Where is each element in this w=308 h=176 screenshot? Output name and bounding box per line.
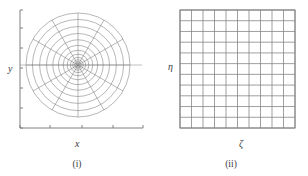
eta-axis-label: η (168, 62, 173, 72)
panel-physical-space: y x (i) (0, 0, 154, 176)
x-axis-label: x (75, 139, 79, 149)
grid-lines-group (180, 10, 295, 128)
zeta-axis-label: ζ (239, 139, 243, 149)
y-axis-label: y (8, 64, 12, 74)
polar-mesh-plot (0, 0, 154, 176)
panel-caption-ii: (ii) (154, 160, 308, 170)
figure-root: y x (i) η ζ (ii) (0, 0, 308, 176)
panel-caption-i: (i) (0, 160, 154, 170)
rectangular-mesh-plot (154, 0, 308, 176)
panel-computational-space: η ζ (ii) (154, 0, 308, 176)
